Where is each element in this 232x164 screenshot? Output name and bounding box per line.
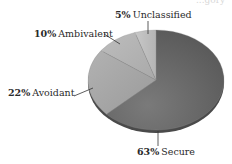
label-secure: 63%Secure	[137, 146, 195, 157]
label-unclassified: 5%Unclassified	[115, 9, 192, 20]
pie-chart: ...gory 63%Secure 22%Avoidant 10%Ambival…	[0, 0, 232, 164]
label-avoidant: 22%Avoidant	[8, 87, 75, 98]
cut-off-title-fragment: ...gory	[196, 0, 226, 5]
pie-slices	[88, 30, 224, 130]
label-ambivalent: 10%Ambivalent	[34, 28, 113, 39]
